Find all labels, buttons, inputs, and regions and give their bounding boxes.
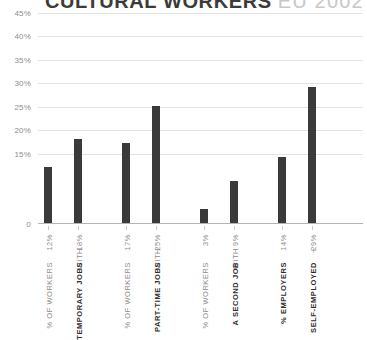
x-axis-tickmark bbox=[312, 226, 313, 230]
x-axis-value-label: 12% bbox=[45, 234, 54, 251]
bar bbox=[122, 143, 130, 223]
x-axis-tickmark bbox=[126, 226, 127, 230]
x-axis-tickmark bbox=[48, 226, 49, 230]
axis-baseline bbox=[38, 223, 363, 224]
x-axis-labels: 12%% OF WORKERS18%WITHTEMPORARY JOBS17%%… bbox=[38, 226, 363, 338]
x-axis-tickmark bbox=[204, 226, 205, 230]
bar bbox=[152, 106, 160, 223]
x-axis-lead-label: % OF WORKERS bbox=[45, 262, 54, 329]
title-subtitle-text: EU 2002 bbox=[278, 0, 364, 12]
gridline bbox=[38, 60, 363, 61]
plot-area: 45%40%35%30%25%20%15%0 bbox=[38, 13, 363, 224]
y-axis-tick-label: 35% bbox=[0, 55, 31, 64]
title-main-text: CULTURAL WORKERS bbox=[45, 0, 272, 12]
y-axis-tick-label: 15% bbox=[0, 149, 31, 158]
bar bbox=[308, 87, 316, 223]
x-axis-category-label: SELF-EMPLOYED bbox=[309, 262, 318, 333]
y-axis-tick-label: 20% bbox=[0, 126, 31, 135]
x-axis-value-label: 14% bbox=[279, 234, 288, 251]
x-axis-value-label: 9% bbox=[231, 234, 240, 246]
gridline bbox=[38, 36, 363, 37]
x-axis-category-label: TEMPORARY JOBS bbox=[75, 262, 84, 340]
x-axis-lead-label: % EMPLOYERS bbox=[279, 262, 288, 324]
bar bbox=[278, 157, 286, 223]
x-axis-tickmark bbox=[156, 226, 157, 230]
gridline bbox=[38, 13, 363, 14]
gridline bbox=[38, 83, 363, 84]
page-title: CULTURAL WORKERSEU 2002 bbox=[45, 0, 364, 11]
x-axis-tickmark bbox=[78, 226, 79, 230]
x-axis-tickmark bbox=[282, 226, 283, 230]
x-axis-tickmark bbox=[234, 226, 235, 230]
x-axis-value-label: 17% bbox=[123, 234, 132, 251]
y-axis-tick-label: 30% bbox=[0, 79, 31, 88]
y-axis-tick-label: 45% bbox=[0, 9, 31, 18]
bar bbox=[44, 167, 52, 223]
x-axis-lead-label: % OF WORKERS bbox=[123, 262, 132, 329]
x-axis-lead-label: % OF WORKERS bbox=[201, 262, 210, 329]
x-axis-category-label: A SECOND JOB bbox=[231, 262, 240, 325]
y-axis-tick-label: 25% bbox=[0, 102, 31, 111]
y-axis-tick-label: 40% bbox=[0, 32, 31, 41]
bar bbox=[230, 181, 238, 223]
y-axis-tick-label: 0 bbox=[0, 220, 31, 229]
x-axis-category-label: PART-TIME JOBS bbox=[153, 262, 162, 332]
bar bbox=[200, 209, 208, 223]
x-axis-lead-label: + bbox=[309, 248, 318, 253]
x-axis-value-label: 3% bbox=[201, 234, 210, 246]
bar bbox=[74, 139, 82, 223]
